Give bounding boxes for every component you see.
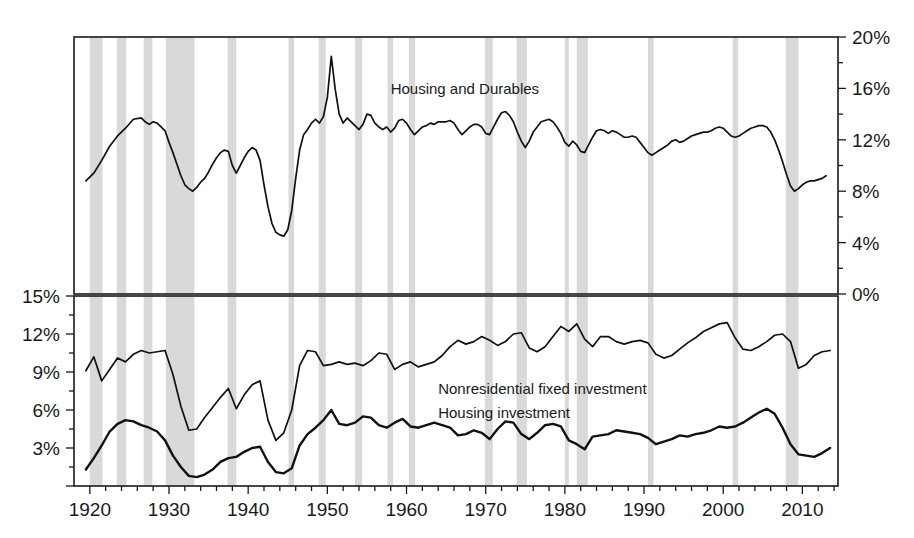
recession-band [117, 37, 127, 294]
y-axis-labels-bottom: 3%6%9%12%15% [22, 286, 60, 459]
recession-band [166, 37, 195, 294]
recession-band [144, 37, 153, 294]
recession-band [786, 37, 799, 294]
x-tick-label: 1940 [227, 499, 269, 520]
recession-band [355, 37, 362, 294]
annotation-nonresidential-fixed-investment: Nonresidential fixed investment [438, 380, 647, 397]
y-tick-label-top: 12% [852, 130, 890, 151]
annotation-housing-and-durables: Housing and Durables [391, 80, 539, 97]
recession-band [355, 296, 362, 486]
axis-ticks-bottom-left [66, 296, 74, 486]
recession-band [786, 296, 799, 486]
x-tick-label: 1920 [69, 499, 111, 520]
recession-band [648, 37, 654, 294]
recession-band [409, 296, 415, 486]
recession-band [648, 296, 654, 486]
x-axis-labels: 1920193019401950196019701980199020002010 [69, 499, 824, 520]
recession-band [733, 296, 739, 486]
y-tick-label-bottom: 12% [22, 324, 60, 345]
x-tick-label: 2000 [702, 499, 744, 520]
recession-band [319, 296, 326, 486]
recession-band [289, 296, 295, 486]
recession-band [409, 37, 415, 294]
y-tick-label-top: 20% [852, 27, 890, 48]
recession-band [90, 37, 103, 294]
y-tick-label-top: 16% [852, 78, 890, 99]
axis-ticks-top-right [838, 37, 846, 294]
recession-band [485, 37, 493, 294]
axis-ticks-x [90, 486, 834, 494]
y-tick-label-top: 0% [852, 284, 880, 305]
y-tick-label-top: 4% [852, 233, 880, 254]
chart-canvas: 0%4%8%12%16%20% 3%6%9%12%15% 19201930194… [0, 0, 914, 538]
recession-band [733, 37, 739, 294]
y-axis-labels-top: 0%4%8%12%16%20% [852, 27, 890, 305]
recession-band [117, 296, 127, 486]
recession-band [388, 296, 394, 486]
x-tick-label: 1990 [623, 499, 665, 520]
x-tick-label: 1960 [385, 499, 427, 520]
x-tick-label: 1950 [306, 499, 348, 520]
recession-bands-top [90, 37, 799, 294]
y-tick-label-bottom: 3% [33, 438, 61, 459]
chart-figure: 0%4%8%12%16%20% 3%6%9%12%15% 19201930194… [0, 0, 914, 538]
annotation-housing-investment: Housing investment [438, 404, 571, 421]
x-tick-label: 1970 [465, 499, 507, 520]
y-tick-label-bottom: 15% [22, 286, 60, 307]
y-tick-label-top: 8% [852, 181, 880, 202]
recession-band [144, 296, 153, 486]
x-tick-label: 2010 [781, 499, 823, 520]
recession-band [289, 37, 295, 294]
recession-band [166, 296, 195, 486]
x-tick-label: 1930 [148, 499, 190, 520]
y-tick-label-bottom: 6% [33, 400, 61, 421]
recession-band [319, 37, 326, 294]
recession-band [577, 37, 588, 294]
recession-band [517, 37, 527, 294]
recession-band [90, 296, 103, 486]
y-tick-label-bottom: 9% [33, 362, 61, 383]
x-tick-label: 1980 [544, 499, 586, 520]
recession-band [388, 37, 394, 294]
recession-band [565, 37, 569, 294]
